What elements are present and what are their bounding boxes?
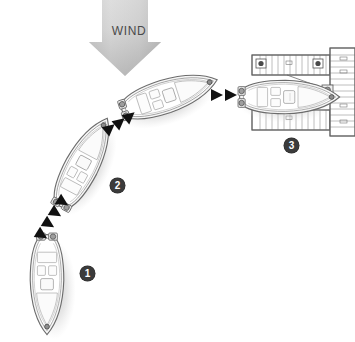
step-marker-2: 2	[110, 178, 125, 193]
diagram-canvas: WIND	[0, 0, 355, 342]
step-marker-1: 1	[80, 266, 95, 281]
step-marker-3: 3	[284, 138, 299, 153]
path-arrows-2-to-3	[102, 108, 139, 137]
path-arrows-1-to-2	[34, 194, 72, 244]
path-arrows-3-to-dock	[211, 89, 237, 101]
path-arrows-layer	[0, 0, 355, 342]
